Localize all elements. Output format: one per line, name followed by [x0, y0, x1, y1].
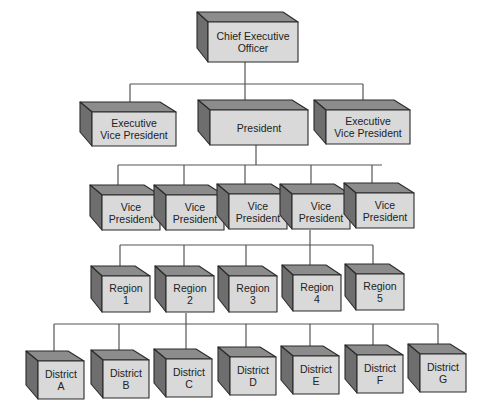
node-label: Region 1 [102, 276, 150, 312]
node-label: Region 5 [356, 274, 404, 310]
node-label: District D [230, 357, 276, 395]
node-label: District F [357, 355, 403, 393]
node-label: Vice President [102, 195, 160, 230]
node-district-b: District B [91, 350, 151, 400]
node-label: Region 4 [293, 275, 341, 311]
node-label: District B [103, 360, 149, 398]
node-district-g: District G [408, 344, 468, 394]
node-district-e: District E [281, 346, 341, 396]
node-label: Vice President [292, 194, 350, 229]
node-label: Vice President [166, 195, 224, 230]
node-label: Vice President [229, 194, 287, 229]
node-label: Region 2 [166, 276, 214, 312]
node-ceo: Chief Executive Officer [197, 12, 300, 64]
node-label: Executive Vice President [92, 112, 176, 146]
node-region-1: Region 1 [91, 266, 152, 314]
node-label: Chief Executive Officer [208, 22, 298, 62]
node-label: District A [38, 361, 84, 399]
node-vp-5: Vice President [344, 183, 416, 230]
node-label: Region 3 [229, 276, 277, 312]
node-region-4: Region 4 [282, 265, 343, 313]
node-president: President [198, 100, 310, 147]
node-vp-3: Vice President [217, 184, 289, 231]
node-label: Executive Vice President [326, 110, 410, 144]
node-evp-left: Executive Vice President [80, 102, 178, 148]
node-label: District G [420, 354, 466, 392]
node-region-2: Region 2 [155, 266, 216, 314]
node-district-c: District C [154, 349, 214, 399]
node-vp-1: Vice President [90, 185, 162, 232]
node-vp-2: Vice President [154, 185, 226, 232]
node-district-a: District A [26, 351, 86, 401]
node-label: District C [166, 359, 212, 397]
node-evp-right: Executive Vice President [314, 100, 412, 146]
node-region-5: Region 5 [345, 264, 406, 312]
node-region-3: Region 3 [218, 266, 279, 314]
node-label: District E [293, 356, 339, 394]
node-district-f: District F [345, 345, 405, 395]
node-label: Vice President [356, 193, 414, 228]
node-vp-4: Vice President [280, 184, 352, 231]
node-label: President [210, 110, 308, 145]
node-district-d: District D [218, 347, 278, 397]
